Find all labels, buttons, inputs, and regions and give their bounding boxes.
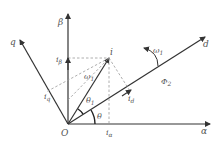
- label-i: i: [110, 47, 113, 57]
- label-alpha: α: [201, 126, 207, 136]
- label-beta: β: [57, 17, 63, 27]
- label-q: q: [10, 37, 16, 47]
- label-i-alpha: iα: [106, 128, 113, 138]
- label-phi2: Φ2: [161, 77, 172, 87]
- theta1-arc: [78, 109, 83, 114]
- i-d-projection: [109, 58, 130, 91]
- label-omega1-rotation: ω1: [153, 46, 163, 56]
- label-omega1-inner: ω1: [84, 72, 94, 82]
- label-i-q: iq: [44, 92, 51, 103]
- theta-arc: [91, 110, 95, 124]
- label-theta1: θ1: [86, 96, 95, 106]
- current-vector-i: [68, 58, 109, 124]
- vector-diagram: O α β d q i iβ iα id iq ω1 ω1 θ1 θ Φ2: [0, 0, 220, 146]
- label-theta: θ: [97, 112, 102, 121]
- label-origin: O: [61, 128, 69, 138]
- label-i-beta: iβ: [56, 55, 63, 66]
- label-i-d: id: [128, 94, 135, 104]
- q-axis: [20, 40, 68, 124]
- label-d: d: [203, 39, 209, 49]
